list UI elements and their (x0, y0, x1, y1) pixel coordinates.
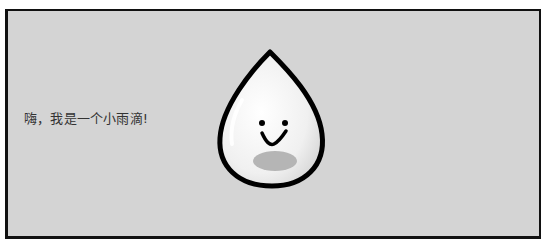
raindrop-character-icon (212, 48, 332, 192)
right-eye-icon (282, 120, 288, 126)
caption-text: 嗨，我是一个小雨滴! (24, 108, 148, 127)
left-eye-icon (259, 120, 265, 126)
bottom-shadow (253, 151, 297, 171)
